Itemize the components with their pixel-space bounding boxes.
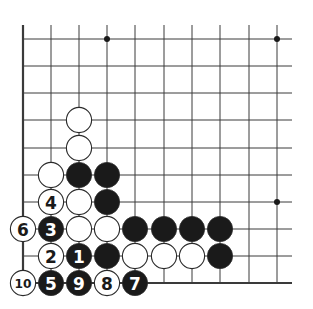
- black-stone: [122, 216, 147, 241]
- move-number-label: 5: [45, 274, 57, 294]
- black-stone-icon: [94, 243, 119, 268]
- white-stone-icon: [179, 243, 204, 268]
- star-point-icon: [104, 36, 110, 42]
- white-stone-icon: [38, 162, 63, 187]
- star-point-icon: [274, 36, 280, 42]
- go-board: 46321105987: [0, 0, 313, 309]
- white-stone-move-4: 4: [38, 189, 63, 214]
- white-stone-icon: [151, 243, 176, 268]
- white-stone-move-8: 8: [94, 270, 119, 295]
- white-stone-icon: [66, 216, 91, 241]
- black-stone-move-1: 1: [66, 243, 91, 268]
- white-stone-icon: [66, 189, 91, 214]
- black-stone-icon: [179, 216, 204, 241]
- white-stone-icon: [122, 243, 147, 268]
- black-stone-icon: [94, 189, 119, 214]
- black-stone-icon: [66, 162, 91, 187]
- black-stone: [94, 162, 119, 187]
- black-stone-move-5: 5: [38, 270, 63, 295]
- white-stone: [94, 216, 119, 241]
- move-number-label: 4: [45, 193, 57, 213]
- move-number-label: 10: [15, 276, 32, 291]
- white-stone-icon: [66, 135, 91, 160]
- white-stone: [66, 135, 91, 160]
- black-stone-icon: [151, 216, 176, 241]
- white-stone-move-10: 10: [10, 270, 35, 295]
- move-number-label: 9: [73, 274, 85, 294]
- black-stone-move-9: 9: [66, 270, 91, 295]
- white-stone: [151, 243, 176, 268]
- white-stone: [66, 189, 91, 214]
- white-stone-move-6: 6: [10, 216, 35, 241]
- move-number-label: 6: [17, 220, 29, 240]
- board-grid: [23, 25, 292, 283]
- black-stone: [179, 216, 204, 241]
- black-stone: [94, 189, 119, 214]
- move-number-label: 2: [45, 247, 57, 267]
- move-number-label: 1: [73, 247, 85, 267]
- white-stone-icon: [66, 107, 91, 132]
- white-stone: [66, 216, 91, 241]
- move-number-label: 8: [101, 274, 113, 294]
- move-number-label: 3: [45, 220, 57, 240]
- white-stone: [38, 162, 63, 187]
- white-stone: [179, 243, 204, 268]
- black-stone-move-7: 7: [122, 270, 147, 295]
- black-stone-icon: [207, 243, 232, 268]
- black-stone-icon: [94, 162, 119, 187]
- white-stone: [122, 243, 147, 268]
- black-stone-icon: [122, 216, 147, 241]
- white-stone: [66, 107, 91, 132]
- black-stone: [207, 243, 232, 268]
- black-stone: [207, 216, 232, 241]
- black-stone: [94, 243, 119, 268]
- black-stone-icon: [207, 216, 232, 241]
- white-stone-icon: [94, 216, 119, 241]
- black-stone-move-3: 3: [38, 216, 63, 241]
- move-number-label: 7: [129, 274, 141, 294]
- white-stone-move-2: 2: [38, 243, 63, 268]
- star-point-icon: [274, 199, 280, 205]
- black-stone: [151, 216, 176, 241]
- black-stone: [66, 162, 91, 187]
